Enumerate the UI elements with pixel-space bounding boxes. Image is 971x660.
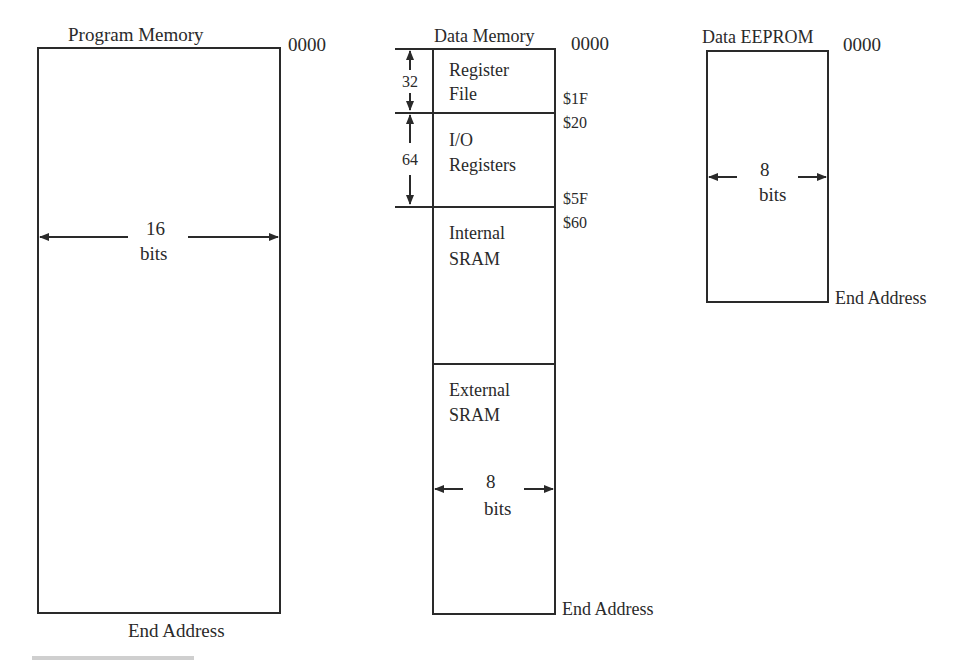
scan-artifact-bar bbox=[32, 656, 194, 660]
dimension-arrows bbox=[0, 0, 971, 660]
